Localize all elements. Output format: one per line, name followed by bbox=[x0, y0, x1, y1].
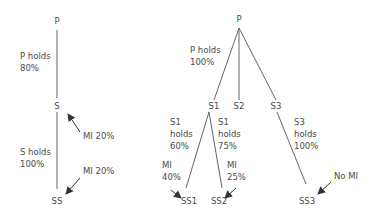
node-ss3: SS3 bbox=[299, 196, 315, 206]
arrow-mi-ss3 bbox=[318, 182, 331, 194]
label-no-mi: No MI bbox=[334, 170, 358, 182]
arrow-mi-s bbox=[68, 114, 80, 132]
label-mi-25: MI 25% bbox=[227, 159, 246, 183]
node-ss1: SS1 bbox=[181, 196, 197, 206]
label-p-holds-100: P holds 100% bbox=[190, 44, 221, 68]
label-mi-ss: MI 20% bbox=[83, 165, 114, 177]
node-s2: S2 bbox=[234, 101, 245, 111]
label-p-holds-80: P holds 80% bbox=[20, 50, 51, 74]
node-s: S bbox=[54, 101, 59, 111]
node-ss: SS bbox=[52, 196, 63, 206]
node-p-left: P bbox=[54, 16, 59, 26]
edge-p-s3 bbox=[239, 28, 276, 100]
label-s-holds-100: S holds 100% bbox=[20, 146, 51, 170]
arrow-mi-ss bbox=[66, 178, 80, 194]
node-ss2: SS2 bbox=[211, 196, 227, 206]
label-s1-holds-75: S1 holds 75% bbox=[218, 116, 241, 152]
node-s3: S3 bbox=[271, 101, 282, 111]
node-p-right: P bbox=[236, 14, 241, 24]
node-s1: S1 bbox=[209, 101, 220, 111]
arrow-mi-ss1 bbox=[171, 190, 181, 198]
label-s3-holds-100: S3 holds 100% bbox=[294, 116, 318, 152]
label-mi-s: MI 20% bbox=[83, 130, 114, 142]
label-s1-holds-60: S1 holds 60% bbox=[170, 116, 193, 152]
label-mi-40: MI 40% bbox=[162, 159, 181, 183]
